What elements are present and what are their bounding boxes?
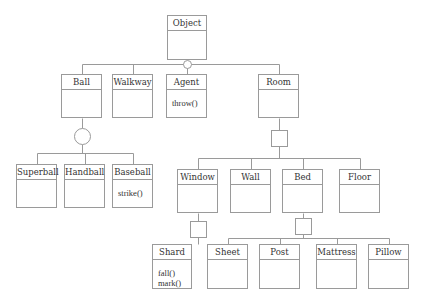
class-room: Room [258, 74, 299, 118]
class-baseball: Baseballstrike() [112, 164, 153, 208]
class-shard: Shardfall()mark() [152, 244, 192, 289]
class-operations [17, 180, 56, 188]
operation: throw() [172, 98, 206, 108]
class-name: Baseball [113, 165, 152, 180]
class-agent: Agentthrow() [166, 74, 207, 118]
class-name: Agent [167, 75, 206, 90]
class-operations [178, 185, 217, 193]
class-operations: fall()mark() [153, 260, 191, 288]
class-name: Wall [231, 170, 270, 185]
class-operations [65, 180, 104, 188]
class-name: Post [260, 245, 299, 260]
class-walkway: Walkway [112, 74, 153, 118]
class-operations [113, 90, 152, 98]
class-name: Floor [340, 170, 379, 185]
class-operations [260, 260, 299, 268]
composition-square-icon [272, 131, 288, 147]
aggregation-circle-icon [75, 129, 91, 145]
class-object: Object [167, 15, 207, 60]
class-name: Handball [65, 165, 104, 180]
class-name: Window [178, 170, 217, 185]
class-name: Bed [283, 170, 322, 185]
composition-square-icon [191, 222, 207, 238]
uml-class-diagram: ObjectBallWalkwayAgentthrow()RoomSuperba… [0, 0, 426, 302]
class-name: Sheet [208, 245, 247, 260]
class-operations [317, 260, 356, 268]
class-post: Post [259, 244, 300, 289]
aggregation-circle-icon [184, 61, 192, 69]
operation: mark() [158, 278, 191, 288]
class-name: Superball [17, 165, 56, 180]
class-handball: Handball [64, 164, 105, 208]
class-operations: throw() [167, 90, 206, 108]
composition-square-icon [296, 219, 312, 235]
class-operations: strike() [113, 180, 152, 198]
class-superball: Superball [16, 164, 57, 208]
class-operations [369, 260, 408, 268]
operation: fall() [158, 268, 191, 278]
class-floor: Floor [339, 169, 380, 213]
class-operations [231, 185, 270, 193]
class-sheet: Sheet [207, 244, 248, 289]
class-name: Room [259, 75, 298, 90]
class-operations [283, 185, 322, 193]
class-name: Pillow [369, 245, 408, 260]
class-window: Window [177, 169, 218, 213]
class-name: Object [168, 16, 206, 31]
class-operations [62, 90, 101, 98]
class-name: Shard [153, 245, 191, 260]
class-operations [208, 260, 247, 268]
class-bed: Bed [282, 169, 323, 213]
class-wall: Wall [230, 169, 271, 213]
class-name: Mattress [317, 245, 356, 260]
class-operations [259, 90, 298, 98]
class-pillow: Pillow [368, 244, 409, 289]
operation: strike() [118, 188, 152, 198]
class-name: Ball [62, 75, 101, 90]
class-mattress: Mattress [316, 244, 357, 289]
class-ball: Ball [61, 74, 102, 118]
class-operations [340, 185, 379, 193]
class-operations [168, 31, 206, 39]
class-name: Walkway [113, 75, 152, 90]
